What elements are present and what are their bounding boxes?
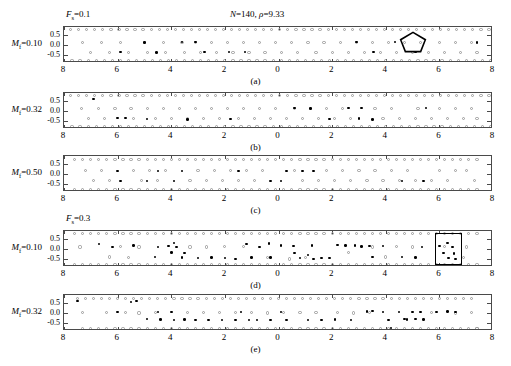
data-point <box>320 319 323 322</box>
data-point <box>170 158 173 161</box>
data-point <box>286 28 289 31</box>
figure-root: Fs=0.1Fs=0.3N=140, ρ=9.33Mf=0.100.50.0-0… <box>0 0 511 366</box>
data-point <box>406 169 409 172</box>
data-point <box>392 59 395 62</box>
data-point <box>116 311 119 314</box>
data-point <box>475 117 478 120</box>
data-point <box>143 125 146 128</box>
data-point <box>188 179 191 182</box>
data-point <box>359 94 362 97</box>
data-point <box>268 242 271 245</box>
data-point <box>141 28 144 31</box>
data-point <box>116 170 119 173</box>
data-point <box>343 28 346 31</box>
data-point <box>105 327 108 330</box>
panel-a-ytick-1: 0.0 <box>36 40 60 49</box>
data-point <box>375 28 378 31</box>
data-point <box>242 107 245 110</box>
data-point <box>89 327 92 330</box>
panel-a-xticklabel-2: 4 <box>168 64 173 74</box>
data-point <box>306 158 309 161</box>
data-point <box>258 188 261 191</box>
data-point <box>314 232 317 235</box>
data-point <box>339 188 342 191</box>
data-point <box>178 327 181 330</box>
data-point <box>178 188 181 191</box>
panel-a-xticklabel-0: 8 <box>61 64 66 74</box>
panel-d-ytickmark-right-2 <box>487 259 491 260</box>
data-point <box>390 107 393 110</box>
panel-d-xticklabel-4: 0 <box>275 268 280 278</box>
data-point <box>266 311 269 314</box>
data-point <box>431 94 434 97</box>
data-point <box>438 297 441 300</box>
data-point <box>363 158 366 161</box>
data-point <box>129 263 132 266</box>
data-point <box>479 28 482 31</box>
data-point <box>331 51 334 54</box>
data-point <box>336 59 339 62</box>
data-point <box>226 107 229 110</box>
data-point <box>354 244 357 247</box>
data-point <box>97 232 100 235</box>
data-point <box>322 41 325 44</box>
data-point <box>164 51 167 54</box>
data-point <box>285 297 288 300</box>
panel-c-xtickmark-top-1 <box>118 156 119 159</box>
data-point <box>336 311 339 314</box>
data-point <box>97 158 100 161</box>
data-point <box>414 179 417 182</box>
data-point <box>331 158 334 161</box>
data-point <box>293 169 296 172</box>
panel-e-xtickmark-bottom-1 <box>118 327 119 330</box>
data-point <box>73 263 76 266</box>
panel-d-xticklabel-1: 6 <box>114 268 119 278</box>
data-point <box>290 158 293 161</box>
data-point <box>376 125 379 128</box>
data-point <box>427 188 430 191</box>
data-point <box>301 117 304 120</box>
panel-c-xtickmark-bottom-0 <box>64 188 65 191</box>
data-point <box>78 59 81 62</box>
data-point <box>312 170 315 173</box>
data-point <box>274 188 277 191</box>
panel-e-plot-area <box>63 294 492 330</box>
data-point <box>85 28 88 31</box>
data-point <box>367 94 370 97</box>
data-point <box>422 318 425 321</box>
data-point <box>292 245 295 248</box>
data-point <box>263 125 266 128</box>
data-point <box>173 180 176 183</box>
data-point <box>146 232 149 235</box>
data-point <box>310 94 313 97</box>
panel-a-ytickmark-right-1 <box>487 45 491 46</box>
data-point <box>320 257 323 260</box>
data-point <box>384 59 387 62</box>
data-point <box>137 327 140 330</box>
data-point <box>140 297 143 300</box>
panel-d-ytick-1: 0.0 <box>36 244 60 253</box>
panel-e-ytickmark-right-2 <box>487 323 491 324</box>
data-point <box>111 246 114 249</box>
data-point <box>207 59 210 62</box>
data-point <box>258 232 261 235</box>
data-point <box>182 28 185 31</box>
data-point <box>245 297 248 300</box>
data-point <box>333 297 336 300</box>
data-point <box>381 297 384 300</box>
data-point <box>154 256 157 259</box>
data-point <box>124 311 127 314</box>
data-point <box>164 169 167 172</box>
panel-c-xticklabel-1: 6 <box>114 193 119 203</box>
data-point <box>328 59 331 62</box>
panel-e-xticklabel-5: 2 <box>329 332 334 342</box>
data-point <box>207 125 210 128</box>
data-point <box>170 327 173 330</box>
data-point <box>347 188 350 191</box>
data-point <box>234 263 237 266</box>
panel-b-xtickmark-bottom-2 <box>171 125 172 128</box>
data-point <box>186 263 189 266</box>
panel-c-ytickmark-left-2 <box>64 184 68 185</box>
panel-e-xtickmark-bottom-0 <box>64 327 65 330</box>
data-point <box>394 41 397 44</box>
